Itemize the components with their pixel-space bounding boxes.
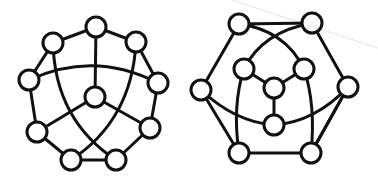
node-bottom-right xyxy=(301,143,321,163)
node-upper-right xyxy=(126,32,146,52)
left-graph xyxy=(19,17,168,170)
diagram-canvas xyxy=(0,0,378,180)
node-inner-right xyxy=(294,59,314,79)
node-bottom-right xyxy=(106,150,126,170)
node-upper-left xyxy=(43,33,63,53)
node-right xyxy=(148,73,168,93)
edge-left-right xyxy=(29,66,158,83)
node-lower-left xyxy=(27,122,47,142)
left-graph-nodes xyxy=(19,17,168,170)
node-top-left xyxy=(229,14,249,34)
node-bottom-left xyxy=(61,150,81,170)
node-top xyxy=(86,17,106,37)
edge-inner-right-bottom-right xyxy=(304,69,312,153)
node-left xyxy=(19,70,39,90)
node-center xyxy=(85,87,105,107)
node-bottom-left xyxy=(229,143,249,163)
right-graph xyxy=(191,13,358,163)
node-center xyxy=(264,78,284,98)
node-inner-left xyxy=(234,59,254,79)
node-lower-right xyxy=(140,118,160,138)
node-top-right xyxy=(302,13,322,33)
edge-inner-left-bottom-left xyxy=(236,69,244,153)
node-right xyxy=(338,77,358,97)
node-left xyxy=(191,80,211,100)
node-inner-bottom xyxy=(264,115,284,135)
